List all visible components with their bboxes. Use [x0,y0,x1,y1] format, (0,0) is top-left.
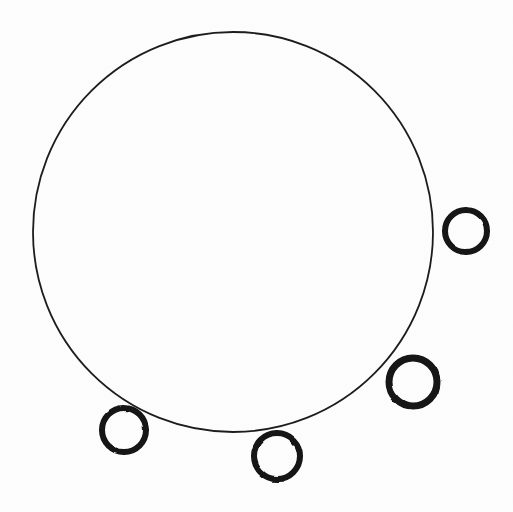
circle-diagram-svg [0,0,513,512]
paper-grain-overlay [0,0,513,512]
figure-canvas [0,0,513,512]
